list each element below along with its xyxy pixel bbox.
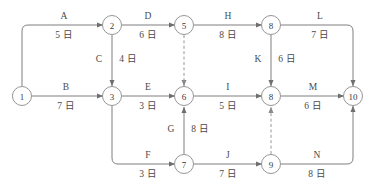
node-1[interactable]: 1 — [13, 87, 32, 106]
node-7-label: 7 — [182, 160, 187, 170]
edge-A-duration: 5 日 — [55, 31, 73, 41]
edge-D-name: D — [144, 12, 151, 22]
edge-F-duration: 3 日 — [139, 170, 157, 180]
node-3-label: 3 — [110, 92, 115, 102]
edge-G-name: G — [167, 125, 174, 135]
edge-F-path — [112, 106, 175, 164]
node-6-label: 6 — [182, 92, 187, 102]
node-8-top-label: 8 — [269, 21, 274, 31]
edge-I-name: I — [226, 83, 229, 93]
node-6[interactable]: 6 — [175, 87, 194, 106]
node-2-label: 2 — [110, 21, 115, 31]
edge-B-name: B — [63, 83, 70, 93]
node-5-label: 5 — [182, 21, 187, 31]
edge-B-duration: 7 日 — [57, 102, 75, 112]
edge-L-duration: 7 日 — [311, 31, 329, 41]
node-5[interactable]: 5 — [175, 16, 194, 35]
network-graph: 1 2 3 5 6 7 8 8 — [0, 0, 377, 190]
edge-H-duration: 8 日 — [219, 31, 237, 41]
edge-J-name: J — [226, 151, 230, 161]
node-10-label: 10 — [349, 92, 359, 102]
node-10[interactable]: 10 — [344, 87, 363, 106]
edge-F-name: F — [145, 151, 150, 161]
edge-N-name: N — [313, 151, 320, 161]
node-1-label: 1 — [20, 92, 25, 102]
edge-K-duration: 6 日 — [278, 55, 296, 65]
edge-M-duration: 6 日 — [304, 102, 322, 112]
node-3[interactable]: 3 — [103, 87, 122, 106]
edge-G-duration: 8 日 — [191, 125, 209, 135]
edge-M-name: M — [309, 83, 318, 93]
node-7[interactable]: 7 — [175, 155, 194, 174]
node-9[interactable]: 9 — [262, 155, 281, 174]
edge-K-name: K — [254, 55, 261, 65]
node-8-middle[interactable]: 8 — [262, 87, 281, 106]
edge-I-duration: 5 日 — [219, 102, 237, 112]
node-8-top[interactable]: 8 — [262, 16, 281, 35]
edge-A-name: A — [60, 12, 67, 22]
edge-L-name: L — [317, 12, 323, 22]
edge-J-duration: 7 日 — [219, 170, 237, 180]
edge-E-duration: 3 日 — [139, 102, 157, 112]
edge-H-name: H — [224, 12, 231, 22]
node-8-middle-label: 8 — [269, 92, 274, 102]
edge-D-duration: 6 日 — [139, 31, 157, 41]
network-diagram-canvas: 1 2 3 5 6 7 8 8 — [0, 0, 377, 190]
node-9-label: 9 — [269, 160, 274, 170]
edge-C-name: C — [96, 55, 103, 65]
edge-N-duration: 8 日 — [308, 170, 326, 180]
node-2[interactable]: 2 — [103, 16, 122, 35]
edge-C-duration: 4 日 — [119, 55, 137, 65]
edge-E-name: E — [145, 83, 151, 93]
